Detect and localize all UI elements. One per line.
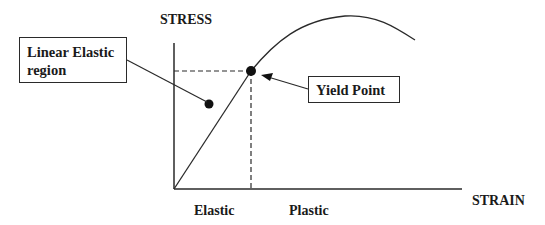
linear-elastic-segment	[174, 71, 251, 189]
yield-point-arrow-line	[268, 77, 308, 89]
yield-point-callout: Yield Point	[308, 76, 400, 103]
plastic-curve	[251, 16, 415, 71]
linear-elastic-callout-line2: region	[27, 61, 126, 79]
yield-point-marker	[246, 66, 256, 76]
region-label-plastic: Plastic	[289, 204, 329, 218]
yield-point-callout-label: Yield Point	[316, 82, 385, 98]
region-label-elastic: Elastic	[194, 204, 234, 218]
x-axis-label: STRAIN	[472, 194, 525, 208]
linear-elastic-callout: Linear Elastic region	[19, 37, 127, 83]
linear-elastic-leader-line	[127, 60, 207, 102]
y-axis-label: STRESS	[160, 13, 212, 27]
yield-point-arrowhead-icon	[261, 73, 273, 81]
stress-strain-plot	[0, 0, 545, 225]
linear-elastic-callout-line1: Linear Elastic	[27, 43, 126, 61]
